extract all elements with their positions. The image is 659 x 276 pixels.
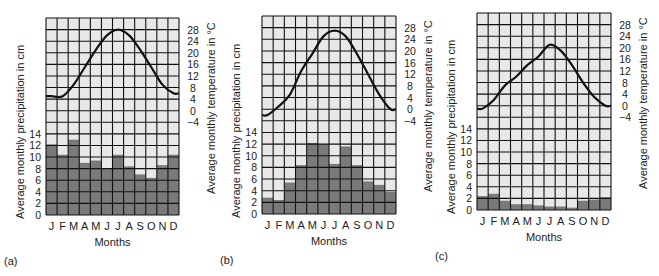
month-label: D — [601, 215, 609, 227]
precip-tick-label: 2 — [466, 192, 472, 204]
precip-tick-label: 6 — [35, 174, 41, 186]
month-label: S — [353, 219, 360, 231]
temp-tick-label: −4 — [187, 116, 199, 128]
month-label: F — [490, 215, 497, 227]
temp-tick-label: 28 — [187, 24, 199, 36]
temp-tick-label: 12 — [619, 65, 631, 77]
temp-tick-label: 16 — [619, 53, 631, 65]
precip-bar — [296, 165, 307, 214]
precip-tick-label: 14 — [245, 126, 257, 138]
month-label: J — [104, 220, 110, 232]
precip-tick-label: 8 — [466, 158, 472, 170]
precip-tick-label: 0 — [251, 208, 257, 220]
precip-tick-label: 12 — [29, 139, 41, 151]
precip-bar — [533, 205, 544, 210]
precip-tick-label: 12 — [245, 138, 257, 150]
precip-tick-label: 8 — [35, 163, 41, 175]
precip-bar — [488, 194, 499, 210]
temp-tick-label: 12 — [187, 70, 199, 82]
month-label: M — [69, 220, 78, 232]
precip-tick-label: 8 — [251, 161, 257, 173]
temp-tick-label: 4 — [190, 93, 196, 105]
precip-bar — [157, 165, 168, 215]
precip-bar — [262, 198, 273, 214]
precip-bar — [385, 192, 396, 214]
month-label: A — [557, 215, 565, 227]
precip-bar — [113, 155, 124, 215]
temp-tick-label: 24 — [404, 33, 416, 45]
month-label: J — [332, 219, 338, 231]
precip-axis-label: Average monthly precipitation in cm — [230, 44, 242, 218]
climate-chart-c: 02468101214−40481216202428JFMAMJJASONDMo… — [431, 0, 651, 276]
month-label: S — [137, 220, 144, 232]
temp-axis-label: Average monthly temperature in °C — [637, 17, 649, 189]
precip-bar — [374, 185, 385, 214]
month-label: A — [125, 220, 133, 232]
precip-tick-label: 0 — [35, 209, 41, 221]
panel-label: (b) — [220, 254, 233, 266]
precip-tick-label: 10 — [29, 151, 41, 163]
month-label: M — [285, 219, 294, 231]
month-label: M — [308, 219, 317, 231]
precip-tick-label: 0 — [466, 204, 472, 216]
month-label: M — [523, 215, 532, 227]
month-label: J — [536, 215, 542, 227]
precip-tick-label: 10 — [460, 146, 472, 158]
temp-tick-label: 8 — [407, 80, 413, 92]
precip-tick-label: 4 — [251, 185, 257, 197]
month-label: N — [590, 215, 598, 227]
temp-tick-label: 16 — [404, 57, 416, 69]
precip-bar — [511, 204, 522, 210]
month-label: M — [91, 220, 100, 232]
precip-tick-label: 2 — [251, 196, 257, 208]
temp-tick-label: −4 — [619, 111, 631, 123]
temp-tick-label: 16 — [187, 58, 199, 70]
precip-tick-label: 2 — [35, 197, 41, 209]
month-label: J — [547, 215, 553, 227]
temp-tick-label: −4 — [404, 115, 416, 127]
month-label: A — [81, 220, 89, 232]
precip-tick-label: 14 — [460, 123, 472, 135]
month-label: D — [386, 219, 394, 231]
precip-bar — [522, 204, 533, 210]
precip-bar — [168, 155, 179, 215]
temp-tick-label: 20 — [187, 47, 199, 59]
precip-bar — [600, 197, 611, 210]
temp-tick-label: 8 — [190, 82, 196, 94]
precip-axis-label: Average monthly precipitation in cm — [14, 45, 26, 219]
precip-tick-label: 4 — [35, 186, 41, 198]
month-label: N — [375, 219, 383, 231]
chart-svg: 02468101214−40481216202428JFMAMJJASOND — [0, 0, 220, 276]
precip-bar — [363, 181, 374, 214]
temp-tick-label: 8 — [622, 77, 628, 89]
month-label: O — [579, 215, 588, 227]
precip-bar — [499, 201, 510, 210]
precip-bar — [284, 183, 295, 214]
panel-label: (a) — [4, 255, 17, 267]
month-label: S — [568, 215, 575, 227]
precip-bar — [124, 166, 135, 215]
precip-bar — [307, 143, 318, 214]
month-label: J — [321, 219, 327, 231]
month-label: F — [59, 220, 66, 232]
month-label: A — [512, 215, 520, 227]
precip-bar — [351, 165, 362, 214]
precip-bar — [578, 201, 589, 210]
precip-bar — [146, 178, 157, 215]
x-axis-label: Months — [262, 235, 396, 247]
month-label: A — [297, 219, 305, 231]
temp-tick-label: 4 — [622, 88, 628, 100]
precip-tick-label: 14 — [29, 128, 41, 140]
month-label: J — [265, 219, 271, 231]
panel-label: (c) — [435, 250, 448, 262]
precip-bar — [329, 164, 340, 214]
precip-bar — [57, 155, 68, 215]
temp-tick-label: 0 — [190, 105, 196, 117]
precip-bar — [340, 146, 351, 214]
month-label: D — [169, 220, 177, 232]
precip-tick-label: 4 — [466, 181, 472, 193]
temp-tick-label: 20 — [619, 42, 631, 54]
temp-tick-label: 12 — [404, 68, 416, 80]
temp-tick-label: 0 — [622, 100, 628, 112]
precip-tick-label: 10 — [245, 150, 257, 162]
